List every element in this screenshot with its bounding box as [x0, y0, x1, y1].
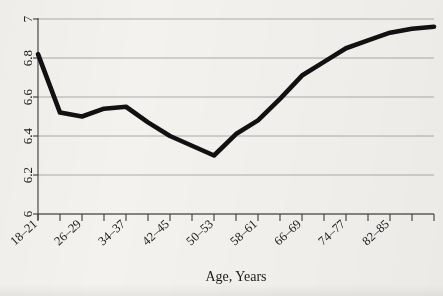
x-tick-label: 18–21 [7, 217, 40, 248]
x-axis-ticks [38, 214, 434, 221]
y-tick-label: 6.8 [20, 50, 35, 66]
y-tick-label: 7 [20, 15, 35, 22]
x-tick-label: 34–37 [95, 217, 128, 248]
x-axis-title: Age, Years [205, 269, 266, 284]
y-tick-label: 6.6 [20, 88, 35, 105]
y-tick-label: 6 [20, 210, 35, 217]
x-tick-label: 26–29 [51, 217, 84, 248]
line-chart: 76.86.66.46.2618–2126–2934–3742–4550–535… [0, 0, 443, 296]
gridlines [38, 19, 434, 214]
x-tick-labels: 18–2126–2934–3742–4550–5358–6166–6974–77… [7, 217, 392, 248]
y-axis-ticks: 76.86.66.46.26 [20, 15, 38, 217]
x-tick-label: 82–85 [359, 217, 392, 248]
x-tick-label: 50–53 [183, 217, 216, 248]
x-tick-label: 66–69 [271, 217, 304, 248]
y-tick-label: 6.4 [20, 127, 35, 144]
chart-canvas: 76.86.66.46.2618–2126–2934–3742–4550–535… [0, 0, 443, 296]
x-tick-label: 42–45 [139, 217, 172, 248]
axes [38, 18, 434, 220]
x-tick-label: 58–61 [227, 217, 260, 248]
x-tick-label: 74–77 [315, 217, 348, 248]
y-tick-label: 6.2 [20, 167, 35, 183]
